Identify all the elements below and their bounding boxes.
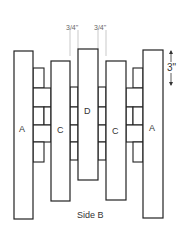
- spacer-block: [133, 142, 143, 162]
- spacer-block: [133, 107, 143, 125]
- dimension-label-block-height: 3": [167, 62, 176, 73]
- spacer-block: [33, 68, 44, 88]
- board-label-d: D: [84, 106, 91, 116]
- dimension-label-gap-left: 3/4": [66, 24, 78, 31]
- arrow-down-icon: [169, 82, 173, 86]
- board-label-c-right: C: [112, 126, 119, 136]
- spacer-block: [70, 87, 78, 107]
- board-label-c-left: C: [57, 125, 64, 135]
- spacer-block: [44, 107, 51, 125]
- diagram-caption: Side B: [77, 210, 104, 220]
- assembly-diagram: [0, 0, 185, 236]
- spacer-block: [33, 88, 51, 107]
- spacer-block: [126, 125, 143, 142]
- spacer-block: [98, 142, 106, 160]
- spacer-block: [126, 107, 133, 125]
- spacer-block: [98, 107, 106, 125]
- spacer-block: [33, 125, 51, 142]
- arrow-up-icon: [169, 50, 173, 54]
- board-label-a-left: A: [19, 124, 25, 134]
- spacer-block: [126, 88, 143, 107]
- spacer-block: [98, 125, 106, 142]
- spacer-block: [33, 142, 44, 162]
- board-a-right: [143, 50, 163, 218]
- dimension-label-gap-right: 3/4": [94, 24, 106, 31]
- spacer-block: [133, 68, 143, 88]
- spacer-block: [70, 142, 78, 160]
- spacer-block: [98, 87, 106, 107]
- board-label-a-right: A: [149, 123, 155, 133]
- board-a-left: [14, 51, 33, 219]
- spacer-block: [70, 125, 78, 142]
- spacer-block: [33, 107, 44, 125]
- spacer-block: [70, 107, 78, 125]
